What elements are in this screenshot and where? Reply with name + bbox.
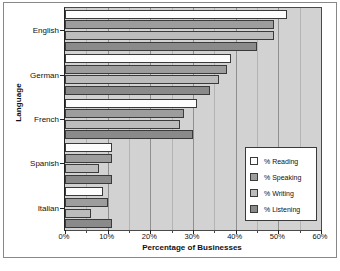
y-axis-label-french: French [34, 115, 59, 124]
x-axis-tick-label: 30% [184, 232, 199, 241]
bar-italian-listening [65, 219, 112, 228]
x-axis-tick [214, 230, 215, 233]
legend-item-writing[interactable]: % Writing [250, 185, 312, 201]
bar-french-speaking [65, 109, 184, 118]
y-axis-label-spanish: Spanish [30, 159, 59, 168]
bar-french-writing [65, 120, 180, 129]
legend-swatch-writing [250, 189, 258, 197]
x-axis-tick-label: 50% [270, 232, 285, 241]
y-axis-tick [60, 75, 65, 76]
y-axis-tick [60, 208, 65, 209]
legend-label-speaking: % Speaking [264, 174, 301, 181]
y-axis-tick [60, 163, 65, 164]
legend-label-writing: % Writing [264, 190, 294, 197]
bar-german-reading [65, 54, 231, 63]
x-axis-title: Percentage of Businesses [64, 243, 320, 252]
legend-item-speaking[interactable]: % Speaking [250, 169, 312, 185]
legend-swatch-speaking [250, 173, 258, 181]
chart-figure: Language EnglishGermanFrenchSpanishItali… [0, 0, 340, 271]
x-axis-tick-label: 40% [227, 232, 242, 241]
y-axis-label-italian: Italian [38, 203, 59, 212]
x-axis-tick-label: 10% [99, 232, 114, 241]
bar-italian-reading [65, 187, 103, 196]
bar-german-writing [65, 75, 219, 84]
legend-item-listening[interactable]: % Listening [250, 201, 312, 217]
x-axis-tick [86, 230, 87, 233]
y-axis-title: Language [14, 63, 23, 143]
legend-swatch-reading [250, 157, 258, 165]
x-axis-tick [172, 230, 173, 233]
bar-spanish-writing [65, 164, 99, 173]
x-axis-tick [129, 230, 130, 233]
bar-french-listening [65, 130, 193, 139]
bar-german-listening [65, 86, 210, 95]
bar-french-reading [65, 99, 197, 108]
x-axis-tick [257, 230, 258, 233]
y-axis-tick [60, 30, 65, 31]
bar-english-writing [65, 31, 274, 40]
bar-english-reading [65, 10, 287, 19]
legend-label-listening: % Listening [264, 206, 300, 213]
bar-spanish-listening [65, 175, 112, 184]
bar-spanish-reading [65, 143, 112, 152]
x-axis-tick-label: 20% [142, 232, 157, 241]
bar-italian-writing [65, 209, 91, 218]
legend-swatch-listening [250, 205, 258, 213]
x-axis-tick-label: 0% [59, 232, 70, 241]
y-axis-label-german: German [30, 70, 59, 79]
bar-english-listening [65, 42, 257, 51]
legend-label-reading: % Reading [264, 158, 298, 165]
cutoff-caption [0, 260, 340, 271]
legend-item-reading[interactable]: % Reading [250, 153, 312, 169]
y-axis-tick [60, 119, 65, 120]
x-axis-tick [300, 230, 301, 233]
bar-spanish-speaking [65, 154, 112, 163]
bar-german-speaking [65, 65, 227, 74]
bar-english-speaking [65, 20, 274, 29]
x-axis-tick-label: 60% [312, 232, 327, 241]
y-axis-label-english: English [33, 26, 59, 35]
chart-legend[interactable]: % Reading % Speaking % Writing % Listeni… [245, 147, 317, 221]
bar-italian-speaking [65, 198, 108, 207]
